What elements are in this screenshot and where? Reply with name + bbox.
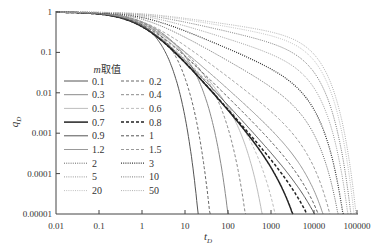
legend-label-m-0.2: 0.2 <box>149 76 162 87</box>
x-tick-label: 1 <box>140 221 145 231</box>
legend-label-m-10: 10 <box>149 171 159 182</box>
curve-m-0.1 <box>56 12 198 214</box>
curve-m-0.2 <box>56 12 210 214</box>
x-tick-label: 100000 <box>344 221 372 231</box>
y-tick-label: 0.00001 <box>23 209 52 219</box>
y-axis-label: qD <box>8 117 23 128</box>
legend-label-m-1: 1 <box>149 130 154 141</box>
y-tick-label: 1 <box>48 7 53 17</box>
legend-label-m-0.5: 0.5 <box>92 103 105 114</box>
y-tick-label: 0.01 <box>36 88 52 98</box>
legend-label-m-20: 20 <box>92 185 102 196</box>
x-tick-label: 0.01 <box>48 221 64 231</box>
curve-m-0.3 <box>56 12 228 214</box>
legend-label-m-1.5: 1.5 <box>149 144 162 155</box>
legend-label-m-0.7: 0.7 <box>92 117 105 128</box>
y-ticks: 0.000010.00010.0010.010.11 <box>23 7 60 219</box>
legend-label-m-0.8: 0.8 <box>149 117 162 128</box>
legend-label-m-0.9: 0.9 <box>92 130 105 141</box>
x-tick-label: 100 <box>221 221 235 231</box>
legend: m取值 0.10.20.30.40.50.60.70.80.911.21.523… <box>64 63 162 196</box>
legend-label-m-0.6: 0.6 <box>149 103 162 114</box>
legend-title: m取值 <box>93 63 120 75</box>
legend-label-m-3: 3 <box>149 158 154 169</box>
legend-label-m-5: 5 <box>92 171 97 182</box>
legend-label-m-0.1: 0.1 <box>92 76 105 87</box>
legend-label-m-50: 50 <box>149 185 159 196</box>
x-tick-label: 10 <box>181 221 191 231</box>
legend-label-m-1.2: 1.2 <box>92 144 105 155</box>
x-axis-label: tD <box>204 230 212 245</box>
y-tick-label: 0.0001 <box>27 169 52 179</box>
legend-label-m-2: 2 <box>92 158 97 169</box>
y-tick-label: 0.001 <box>32 128 52 138</box>
svg-text:qD: qD <box>8 117 23 128</box>
legend-label-m-0.4: 0.4 <box>149 89 162 100</box>
x-tick-label: 10000 <box>303 221 326 231</box>
y-tick-label: 0.1 <box>41 47 52 57</box>
legend-label-m-0.3: 0.3 <box>92 89 105 100</box>
x-tick-label: 1000 <box>262 221 281 231</box>
decline-curve-chart: 0.010.1110100100010000100000 0.000010.00… <box>0 0 380 251</box>
x-tick-label: 0.1 <box>93 221 104 231</box>
